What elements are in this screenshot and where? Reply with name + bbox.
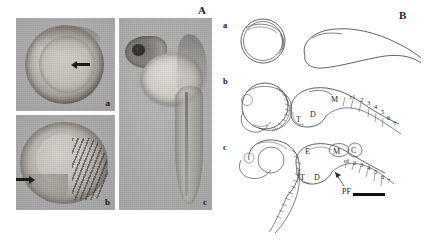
- label-c-r7: 7: [387, 177, 391, 184]
- schematic-a-drawing: [241, 19, 285, 63]
- micrograph-b: b: [16, 115, 115, 210]
- label-c-r5: 5: [374, 168, 377, 175]
- micrograph-c: c: [119, 18, 212, 210]
- micrograph-b-letter: b: [105, 198, 110, 207]
- schematic-c-drawing: [239, 140, 301, 233]
- label-b-D: D: [310, 110, 316, 119]
- schematic-c-somite-hatching: [276, 150, 301, 218]
- label-b-r1: r1: [350, 93, 355, 100]
- label-b-r5: 5: [381, 108, 384, 115]
- micrograph-c-letter: c: [203, 198, 207, 207]
- panel-b-group: B a b c: [213, 0, 426, 242]
- schematic-b-drawing: [241, 83, 291, 132]
- label-c-PF: PF: [342, 187, 351, 196]
- schematic-b-head-outline: [291, 88, 401, 134]
- label-b-r2: 2: [360, 96, 363, 103]
- label-c-r1: r1: [344, 157, 349, 164]
- label-b-r3: 3: [367, 99, 370, 106]
- schematic-b-somite-hatching: [274, 90, 290, 130]
- figure-root: A a b: [0, 0, 426, 242]
- label-b-r4: 4: [374, 103, 378, 110]
- micrograph-a: a: [16, 18, 115, 111]
- label-b-T: T: [296, 115, 301, 124]
- photo-grain-b: [16, 115, 115, 210]
- panel-b-linework: T D M r1 2 3 4 5 6 7: [213, 0, 426, 242]
- label-c-E: E: [305, 147, 310, 156]
- micrograph-a-letter: a: [106, 99, 111, 108]
- label-c-D: D: [314, 173, 320, 182]
- scale-bar: [353, 193, 385, 196]
- label-c-T: T: [300, 173, 305, 182]
- photo-grain-a: [16, 18, 115, 111]
- label-b-r7: 7: [393, 120, 397, 127]
- schematic-c-head-outline: [296, 143, 394, 186]
- schematic-a-head-outline: [304, 29, 421, 68]
- label-c-r2: 2: [353, 159, 356, 166]
- label-c-C: C: [351, 146, 356, 155]
- panel-a-label: A: [198, 4, 206, 16]
- label-c-M: M: [333, 147, 340, 156]
- label-c-r3: 3: [360, 161, 363, 168]
- label-b-M: M: [331, 95, 338, 104]
- photo-grain-c: [119, 18, 212, 210]
